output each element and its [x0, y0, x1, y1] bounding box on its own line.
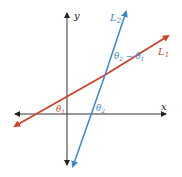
- theta2-label: θ2: [96, 103, 105, 114]
- theta1-label: θ1: [56, 104, 65, 115]
- L1-label: L1: [157, 46, 169, 59]
- angle-between-lines-diagram: y x L2 L1 θ2 − θ1 θ1 θ2: [0, 0, 182, 177]
- x-axis-label: x: [161, 101, 167, 112]
- y-axis-label: y: [73, 10, 80, 21]
- theta2-minus-theta1-label: θ2 − θ1: [114, 51, 144, 62]
- L2-label: L2: [109, 12, 122, 25]
